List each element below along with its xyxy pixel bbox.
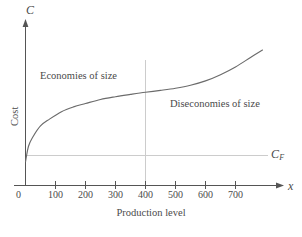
x-tick-label-700: 700 (221, 189, 251, 200)
chart-canvas (0, 0, 302, 237)
x-tick-label-0: 0 (4, 189, 34, 200)
x-tick-label-500: 500 (161, 189, 191, 200)
x-tick-label-400: 400 (131, 189, 161, 200)
x-axis-symbol: x (288, 180, 293, 192)
diseconomies-of-size-annotation: Diseconomies of size (170, 99, 260, 110)
x-tick-label-300: 300 (101, 189, 131, 200)
cost-curve-figure: C x CF Economies of size Diseconomies of… (0, 0, 302, 237)
x-tick-label-600: 600 (191, 189, 221, 200)
fixed-cost-label-base: C (271, 147, 279, 161)
x-tick-label-200: 200 (71, 189, 101, 200)
economies-of-size-annotation: Economies of size (40, 71, 117, 82)
x-tick-label-100: 100 (41, 189, 71, 200)
fixed-cost-label: CF (271, 148, 284, 162)
x-axis-arrowhead (276, 183, 284, 189)
y-axis-symbol: C (26, 4, 34, 16)
fixed-cost-label-subscript: F (279, 153, 284, 162)
y-axis-arrowhead (23, 19, 29, 27)
y-axis-title: Cost (10, 94, 21, 138)
x-axis-title: Production level (0, 208, 302, 219)
